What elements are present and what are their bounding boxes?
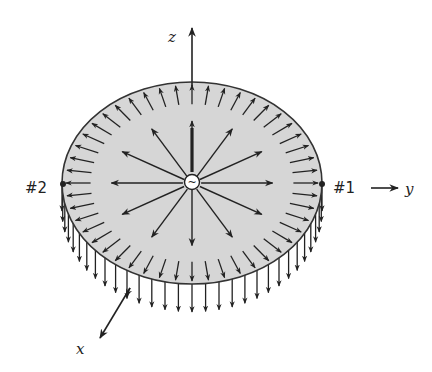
point-2-label: #2 — [25, 179, 47, 197]
x-axis-label: x — [76, 340, 85, 358]
y-axis-label: y — [404, 180, 414, 198]
ac-source-symbol: ~ — [187, 176, 196, 189]
z-axis-label: z — [167, 28, 176, 46]
disk-field-diagram: z y x #1 #2 ~ — [0, 0, 432, 372]
point-1-dot — [319, 181, 325, 187]
diagram-svg: z y x #1 #2 ~ — [0, 0, 432, 372]
point-2-dot — [60, 181, 66, 187]
point-1-label: #1 — [333, 179, 355, 197]
